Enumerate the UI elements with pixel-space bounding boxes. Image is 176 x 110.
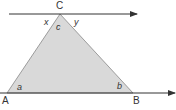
angle-label-y: y xyxy=(74,18,79,27)
triangle-abc xyxy=(7,14,133,93)
angle-label-b: b xyxy=(117,82,122,91)
angle-label-c: c xyxy=(56,23,61,32)
vertex-label-c: C xyxy=(56,1,63,11)
angle-label-x: x xyxy=(44,18,49,27)
diagram-graphics xyxy=(0,0,176,110)
vertex-label-a: A xyxy=(2,96,9,106)
angle-label-a: a xyxy=(17,83,22,92)
triangle-diagram: C A B x c y a b xyxy=(0,0,176,110)
vertex-label-b: B xyxy=(133,96,140,106)
